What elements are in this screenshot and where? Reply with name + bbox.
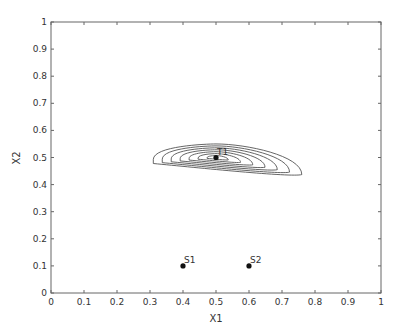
y-tick-label: 0.9 xyxy=(33,44,48,54)
y-tick-label: 0.2 xyxy=(33,234,47,244)
x-tick-label: 0.4 xyxy=(176,297,191,307)
x-tick-label: 0 xyxy=(48,297,54,307)
x-tick-label: 0.1 xyxy=(77,297,91,307)
x-axis-label: X1 xyxy=(209,313,222,324)
point-label: S2 xyxy=(250,255,261,265)
y-axis-label: X2 xyxy=(11,151,22,164)
contour-chart: 00.10.20.30.40.50.60.70.80.9100.10.20.30… xyxy=(0,0,407,330)
y-tick-label: 0.7 xyxy=(33,98,47,108)
x-tick-label: 0.7 xyxy=(275,297,289,307)
y-tick-label: 0.6 xyxy=(33,125,48,135)
y-tick-label: 0.3 xyxy=(33,207,47,217)
y-tick-label: 0.1 xyxy=(33,261,47,271)
x-tick-label: 1 xyxy=(378,297,384,307)
y-tick-label: 0.5 xyxy=(33,153,47,163)
x-tick-label: 0.2 xyxy=(110,297,124,307)
x-tick-label: 0.3 xyxy=(143,297,157,307)
y-tick-label: 1 xyxy=(41,17,47,27)
point-label: T1 xyxy=(216,147,228,157)
point-label: S1 xyxy=(184,255,195,265)
y-tick-label: 0.8 xyxy=(33,71,48,81)
y-tick-label: 0.4 xyxy=(33,180,48,190)
x-tick-label: 0.6 xyxy=(242,297,257,307)
y-tick-label: 0 xyxy=(41,288,47,298)
x-tick-label: 0.5 xyxy=(209,297,223,307)
x-tick-label: 0.8 xyxy=(308,297,323,307)
x-tick-label: 0.9 xyxy=(341,297,356,307)
